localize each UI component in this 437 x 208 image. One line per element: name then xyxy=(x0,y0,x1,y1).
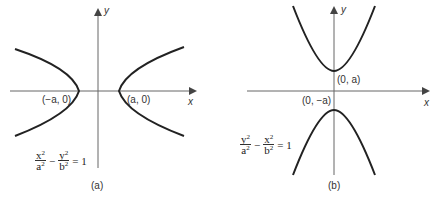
panel-a-equation: x2 a2 − y2 b2 = 1 xyxy=(35,150,90,171)
panel-a-left-branch xyxy=(15,49,79,136)
panel-b-caption: (b) xyxy=(328,180,340,191)
panel-a-caption: (a) xyxy=(91,180,103,191)
panel-a-vertex-right-label: (a, 0) xyxy=(127,94,150,105)
panel-a-term1: x2 a2 xyxy=(35,150,46,171)
panel-a-vertex-left-label: (−a, 0) xyxy=(42,94,71,105)
panel-b-x-label: x xyxy=(424,97,429,108)
panel-a-x-label: x xyxy=(188,96,193,107)
panel-b-vertex-bottom-label: (0, −a) xyxy=(302,95,331,106)
panel-b-term2: x2 b2 xyxy=(263,134,274,155)
panel-a-y-label: y xyxy=(104,5,109,16)
panel-b-term1: y2 a2 xyxy=(240,134,251,155)
panel-a-term2: y2 b2 xyxy=(58,150,69,171)
panel-b-y-label: y xyxy=(341,4,346,15)
panel-a xyxy=(10,10,195,168)
panel-b-vertex-top-label: (0, a) xyxy=(337,74,360,85)
panel-b-equation: y2 a2 − x2 b2 = 1 xyxy=(240,134,295,155)
